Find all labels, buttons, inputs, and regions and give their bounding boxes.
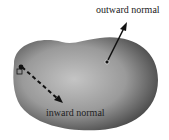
diagram-canvas bbox=[0, 0, 169, 140]
outward-arrowhead-icon bbox=[120, 22, 127, 31]
outward-normal-label: outward normal bbox=[96, 4, 160, 15]
inward-normal-label: inward normal bbox=[46, 107, 105, 118]
outward-point bbox=[105, 60, 109, 64]
